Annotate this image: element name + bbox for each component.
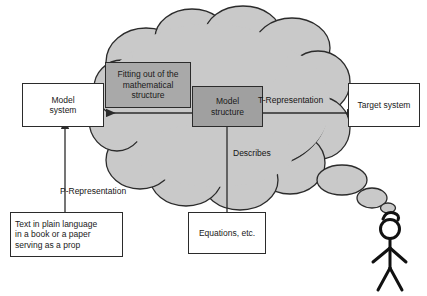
stick-figure-leg-left (378, 268, 390, 290)
node-plain-text-prop-line-1: Text in plain language (15, 219, 97, 230)
node-target-system-line-1: Target system (358, 100, 411, 111)
edge-label-p-representation: P-Representation (60, 186, 126, 196)
node-plain-text-prop[interactable]: Text in plain language in a book or a pa… (10, 212, 123, 257)
stick-figure-arm-right (390, 248, 406, 262)
edge-label-describes: Describes (233, 148, 271, 158)
thought-bubble-large (317, 165, 367, 195)
node-model-structure[interactable]: Model structure (192, 86, 263, 127)
node-model-system-line-1: Model (51, 95, 74, 106)
node-plain-text-prop-line-3: serving as a prop (15, 240, 80, 251)
stick-figure-arm-left (373, 248, 390, 262)
stick-figure-head-icon (381, 220, 400, 239)
stick-figure-leg-right (390, 268, 402, 290)
node-target-system[interactable]: Target system (348, 83, 420, 127)
node-fitting-out-of-mathematical-structure[interactable]: Fitting out of the mathematical structur… (105, 62, 191, 108)
edge-label-t-representation: T-Representation (258, 95, 323, 105)
diagram-canvas: Model system Target system Fitting out o… (0, 0, 427, 296)
stick-figure (373, 213, 406, 290)
node-fitting-out-line-1: Fitting out of the (118, 69, 179, 80)
node-model-structure-line-1: Model (216, 96, 239, 107)
node-model-system[interactable]: Model system (22, 83, 104, 127)
node-equations[interactable]: Equations, etc. (188, 212, 266, 254)
node-fitting-out-line-2: mathematical (123, 80, 174, 91)
node-equations-line-1: Equations, etc. (199, 228, 255, 239)
node-plain-text-prop-line-2: in a book or a paper (15, 229, 91, 240)
node-model-structure-line-2: structure (211, 107, 244, 118)
node-fitting-out-line-3: structure (131, 90, 164, 101)
thought-bubble-group (317, 165, 396, 213)
node-model-system-line-2: system (50, 105, 77, 116)
